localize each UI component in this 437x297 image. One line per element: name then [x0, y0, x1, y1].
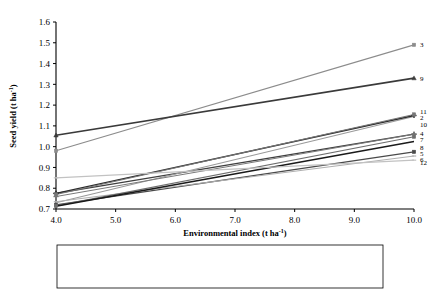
svg-text:Environmental index (t ha-1): Environmental index (t ha-1) — [183, 228, 286, 238]
svg-text:Seed yield (t ha-1): Seed yield (t ha-1) — [8, 84, 18, 148]
axes-group — [56, 22, 414, 209]
y-tick-label: 1.2 — [39, 100, 50, 110]
y-tick-label: 1.1 — [39, 121, 50, 131]
y-axis-title: Seed yield (t ha-1) — [8, 84, 18, 148]
endpoint-label-7: 7 — [420, 136, 424, 144]
y-axis-ticks: 0.70.80.91.01.11.21.31.41.51.6 — [39, 17, 56, 214]
legend — [57, 245, 383, 288]
x-axis-title-tail: ) — [284, 228, 287, 238]
x-tick-label: 4.0 — [50, 215, 62, 225]
series-marker-square — [412, 113, 415, 116]
endpoint-label-12: 12 — [420, 159, 428, 167]
series-marker-square — [412, 43, 415, 46]
series-line-12 — [56, 160, 414, 178]
series-marker-square — [54, 204, 57, 207]
y-tick-label: 0.9 — [39, 163, 51, 173]
y-tick-label: 0.8 — [39, 183, 51, 193]
x-tick-label: 10.0 — [406, 215, 422, 225]
legend-border — [57, 245, 383, 288]
seed-yield-chart: 0.70.80.91.01.11.21.31.41.51.6 4.05.06.0… — [0, 0, 437, 297]
endpoint-labels-group: 39112104785612 — [420, 41, 428, 167]
series-line-8 — [56, 141, 414, 206]
x-tick-label: 8.0 — [289, 215, 301, 225]
series-marker-square — [412, 135, 415, 138]
x-tick-label: 5.0 — [110, 215, 122, 225]
series-line-3 — [56, 45, 414, 151]
x-axis-ticks: 4.05.06.07.08.09.010.0 — [50, 209, 422, 225]
x-axis-title-main: Environmental index (t ha — [183, 228, 279, 238]
endpoint-label-3: 3 — [420, 41, 424, 49]
series-marker-square — [412, 150, 415, 153]
chart-canvas: 0.70.80.91.01.11.21.31.41.51.6 4.05.06.0… — [0, 0, 437, 297]
y-tick-label: 1.3 — [39, 80, 51, 90]
y-tick-label: 0.7 — [39, 204, 51, 214]
x-tick-label: 9.0 — [349, 215, 361, 225]
series-marker-square — [54, 193, 57, 196]
y-tick-label: 1.5 — [39, 38, 51, 48]
endpoint-label-10: 10 — [420, 121, 428, 129]
x-tick-label: 6.0 — [170, 215, 182, 225]
series-lines-group — [56, 45, 414, 206]
x-tick-label: 7.0 — [229, 215, 241, 225]
x-axis-title: Environmental index (t ha-1) — [183, 228, 286, 238]
y-tick-label: 1.6 — [39, 17, 51, 27]
y-tick-label: 1.0 — [39, 142, 51, 152]
series-line-4 — [56, 134, 414, 196]
series-marker-square — [54, 149, 57, 152]
y-axis-title-tail: ) — [8, 84, 18, 87]
series-line-7 — [56, 137, 414, 206]
y-tick-label: 1.4 — [39, 59, 51, 69]
endpoint-label-9: 9 — [420, 75, 424, 83]
y-axis-title-main: Seed yield (t ha — [8, 91, 18, 147]
